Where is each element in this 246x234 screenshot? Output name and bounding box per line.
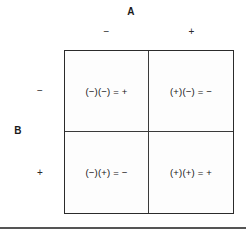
column-axis-title: A xyxy=(0,6,246,17)
column-header-negative: − xyxy=(64,26,149,37)
row-axis-title: B xyxy=(8,125,28,136)
grid-cell-negative-negative: (−)(−) = + xyxy=(65,51,149,132)
column-header-positive: + xyxy=(149,26,234,37)
sign-multiplication-figure: A − + B − + (−)(−) = + (+)(−) = − (−)(+)… xyxy=(0,0,246,234)
grid-cell-negative-positive: (−)(+) = − xyxy=(65,132,149,213)
sign-grid: (−)(−) = + (+)(−) = − (−)(+) = − (+)(+) … xyxy=(64,50,234,214)
grid-cell-positive-positive: (+)(+) = + xyxy=(149,132,233,213)
row-header-positive: + xyxy=(30,167,50,178)
row-header-negative: − xyxy=(30,85,50,96)
grid-cell-positive-negative: (+)(−) = − xyxy=(149,51,233,132)
bottom-divider-rule xyxy=(0,227,246,229)
